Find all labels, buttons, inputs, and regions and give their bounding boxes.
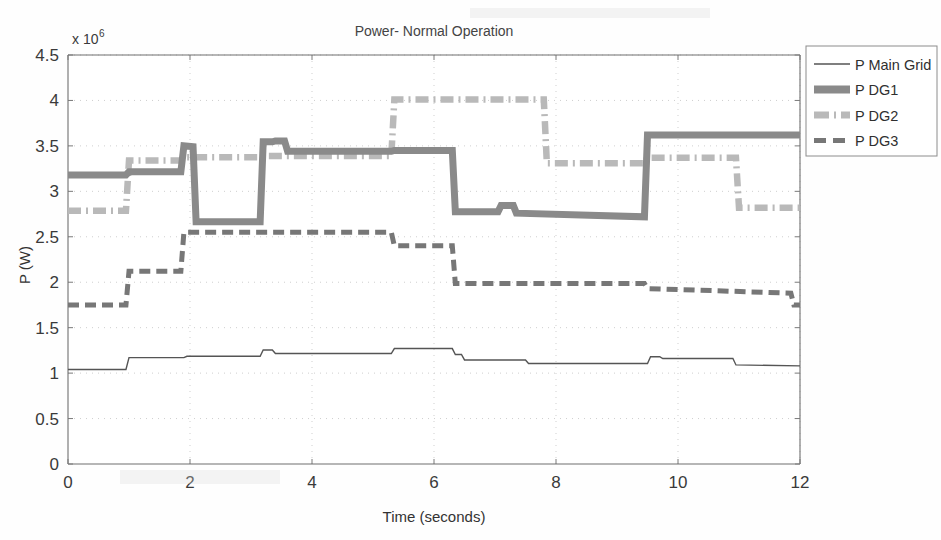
y-tick-label: 4 <box>50 91 59 110</box>
chart-legend[interactable]: P Main GridP DG1P DG2P DG3 <box>806 46 937 156</box>
chart-figure: 00.511.522.533.544.5 024681012 x 10 6 P … <box>0 0 941 540</box>
y-exponent-power: 6 <box>99 28 105 39</box>
y-tick-label: 3.5 <box>35 137 59 156</box>
y-tick-label: 0 <box>50 455 59 474</box>
chart-title: Power- Normal Operation <box>355 23 514 39</box>
y-axis-exponent: x 10 6 <box>72 28 105 47</box>
x-tick-label: 10 <box>669 473 688 492</box>
x-axis-label: Time (seconds) <box>383 508 486 525</box>
legend-label: P Main Grid <box>855 57 931 73</box>
legend-label: P DG1 <box>855 82 898 98</box>
legend-label: P DG3 <box>855 133 898 149</box>
y-tick-label: 2 <box>50 273 59 292</box>
x-tick-label: 4 <box>307 473 316 492</box>
y-exponent-prefix: x 10 <box>72 31 99 47</box>
y-axis-label: P (W) <box>16 246 33 284</box>
legend-label: P DG2 <box>855 108 898 124</box>
y-tick-label: 1 <box>50 364 59 383</box>
x-tick-label: 0 <box>63 473 72 492</box>
y-tick-label: 0.5 <box>35 410 59 429</box>
x-tick-label: 6 <box>429 473 438 492</box>
power-line-chart: 00.511.522.533.544.5 024681012 x 10 6 P … <box>0 0 941 540</box>
y-tick-label: 2.5 <box>35 228 59 247</box>
x-tick-label: 8 <box>551 473 560 492</box>
x-tick-label: 12 <box>791 473 810 492</box>
y-tick-label: 1.5 <box>35 319 59 338</box>
y-tick-label: 4.5 <box>35 46 59 65</box>
y-tick-label: 3 <box>50 182 59 201</box>
